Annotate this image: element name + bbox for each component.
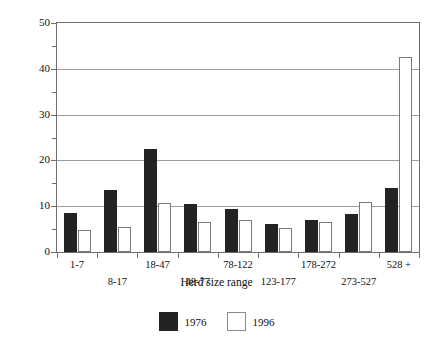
chart-legend: 19761996 bbox=[0, 312, 433, 331]
x-axis-category-label: 178-272 bbox=[291, 259, 345, 271]
bar-1996-528+ bbox=[399, 57, 412, 252]
legend-item-1996: 1996 bbox=[227, 312, 275, 331]
bars-layer bbox=[57, 23, 419, 252]
bar-1976-123-177 bbox=[265, 224, 278, 252]
bar-1996-273-527 bbox=[359, 202, 372, 252]
x-axis-title: Herd size range bbox=[0, 276, 433, 288]
bar-1976-18-47 bbox=[144, 149, 157, 252]
legend-swatch-icon bbox=[159, 312, 178, 331]
bar-chart: Percentage of total in size range 010203… bbox=[0, 0, 433, 345]
bar-1996-1-7 bbox=[78, 230, 91, 252]
legend-label: 1996 bbox=[253, 316, 275, 328]
bar-1976-178-272 bbox=[305, 220, 318, 252]
y-axis-tick-label: 0 bbox=[4, 246, 50, 257]
y-axis-tick-label: 40 bbox=[4, 63, 50, 74]
bar-1996-123-177 bbox=[279, 228, 292, 252]
bar-1996-8-17 bbox=[118, 227, 131, 252]
bar-1996-18-47 bbox=[158, 203, 171, 252]
bar-1976-78-122 bbox=[225, 209, 238, 253]
legend-label: 1976 bbox=[185, 316, 207, 328]
bar-1996-78-122 bbox=[239, 220, 252, 252]
y-axis-tick-label: 10 bbox=[4, 200, 50, 211]
x-axis-category-label: 18-47 bbox=[131, 259, 185, 271]
x-tick bbox=[137, 253, 138, 258]
x-tick bbox=[258, 253, 259, 258]
y-axis-tick-label: 20 bbox=[4, 154, 50, 165]
bar-1996-178-272 bbox=[319, 222, 332, 252]
x-axis-category-label: 528 + bbox=[372, 259, 426, 271]
x-tick bbox=[218, 253, 219, 258]
x-tick bbox=[339, 253, 340, 258]
x-tick bbox=[419, 253, 420, 258]
bar-1976-273-527 bbox=[345, 214, 358, 252]
x-tick bbox=[379, 253, 380, 258]
y-axis-tick-label: 30 bbox=[4, 109, 50, 120]
bar-1976-48-77 bbox=[184, 204, 197, 252]
x-tick bbox=[298, 253, 299, 258]
legend-swatch-icon bbox=[227, 312, 246, 331]
x-axis-category-label: 1-7 bbox=[50, 259, 104, 271]
x-tick bbox=[97, 253, 98, 258]
bar-1976-1-7 bbox=[64, 213, 77, 252]
bar-1976-528+ bbox=[385, 188, 398, 252]
legend-item-1976: 1976 bbox=[159, 312, 207, 331]
x-tick bbox=[178, 253, 179, 258]
bar-1996-48-77 bbox=[198, 222, 211, 252]
x-tick bbox=[57, 253, 58, 258]
x-axis-category-label: 78-122 bbox=[211, 259, 265, 271]
bar-1976-8-17 bbox=[104, 190, 117, 252]
y-axis-tick-label: 50 bbox=[4, 17, 50, 28]
